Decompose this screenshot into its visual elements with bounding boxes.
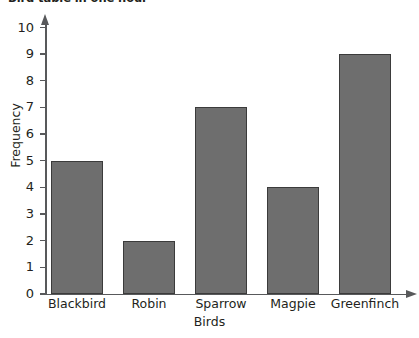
bar	[123, 241, 175, 294]
y-axis-tick-label: 10	[0, 21, 34, 34]
x-axis-title: Birds	[0, 314, 419, 329]
y-axis-tick	[40, 293, 46, 294]
y-axis-tick-label: 3	[0, 207, 34, 220]
y-axis-tick	[40, 133, 46, 134]
bar	[51, 161, 103, 294]
y-axis-tick	[40, 107, 46, 108]
bar	[267, 187, 319, 294]
bar-chart-plot-area: 012345678910 BlackbirdRobinSparrowMagpie…	[0, 0, 419, 338]
chart-screenshot: Bird table in one hour 012345678910 Blac…	[0, 0, 419, 338]
bar	[195, 107, 247, 294]
bar	[339, 54, 391, 294]
y-axis-tick-label: 9	[0, 47, 34, 60]
y-axis-tick-label: 8	[0, 74, 34, 87]
y-axis-tick	[40, 187, 46, 188]
x-axis-category-label: Greenfinch	[320, 297, 410, 311]
y-axis-tick-label: 1	[0, 260, 34, 273]
y-axis-tick	[40, 240, 46, 241]
y-axis-tick-label: 2	[0, 234, 34, 247]
y-axis-arrow-icon	[41, 14, 49, 25]
y-axis-tick	[40, 27, 46, 28]
y-axis-tick	[40, 53, 46, 54]
y-axis-title: Frequency	[8, 88, 23, 184]
y-axis-tick	[40, 80, 46, 81]
y-axis-tick-label: 0	[0, 287, 34, 300]
y-axis-tick	[40, 213, 46, 214]
y-axis-tick	[40, 267, 46, 268]
y-axis-tick	[40, 160, 46, 161]
